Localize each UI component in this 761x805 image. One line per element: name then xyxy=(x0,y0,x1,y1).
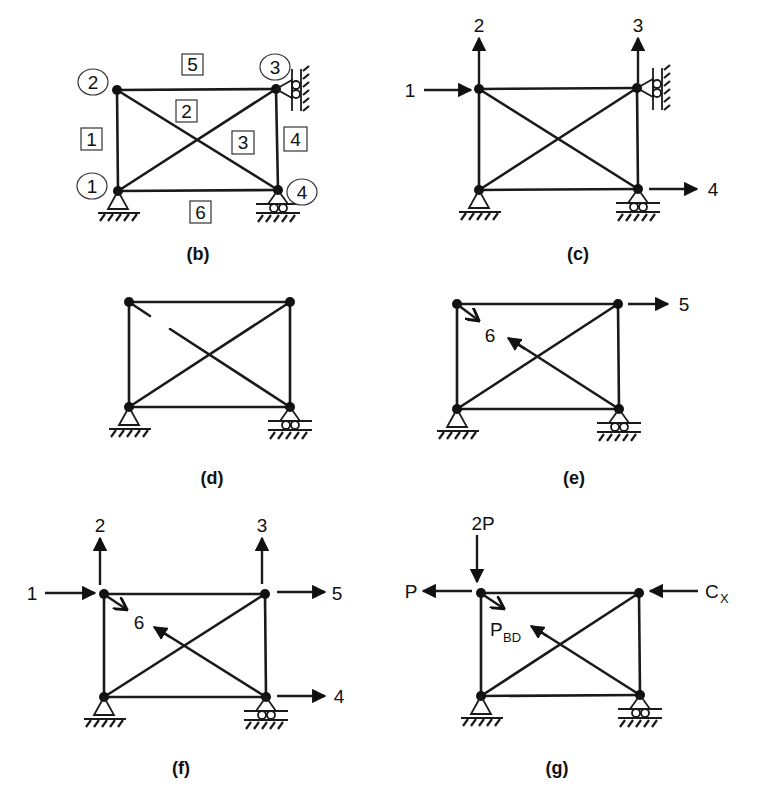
member-label-3: 3 xyxy=(232,131,254,154)
svg-text:3: 3 xyxy=(238,132,249,153)
dof-arrow-6a xyxy=(458,305,478,320)
dof-label-6: 6 xyxy=(485,325,496,346)
caption-g: (g) xyxy=(546,758,569,778)
member-label-5: 5 xyxy=(182,54,203,75)
member-label-2: 2 xyxy=(176,100,197,122)
truss-members xyxy=(479,88,638,190)
dof-label-4: 4 xyxy=(708,179,719,200)
panel-e: 6 5 (e) xyxy=(437,294,689,488)
panel-c: 1 2 3 4 (c) xyxy=(405,15,719,264)
truss-members xyxy=(457,304,619,409)
svg-text:X: X xyxy=(720,591,729,606)
member-label-4: 4 xyxy=(284,127,307,151)
dof-label-1: 1 xyxy=(27,583,38,604)
svg-text:2: 2 xyxy=(88,72,99,93)
dof-label-1: 1 xyxy=(405,80,416,101)
dof-label-3: 3 xyxy=(633,15,644,36)
truss-members xyxy=(129,302,290,407)
dof-label-2: 2 xyxy=(474,15,485,36)
svg-text:C: C xyxy=(705,581,719,602)
dof-label-4: 4 xyxy=(334,686,345,707)
node-label-1: 1 xyxy=(77,173,107,199)
svg-text:1: 1 xyxy=(87,176,98,197)
caption-c: (c) xyxy=(567,244,589,264)
dof-label-3: 3 xyxy=(257,515,268,536)
caption-f: (f) xyxy=(172,758,190,778)
node-2 xyxy=(112,85,122,95)
svg-text:5: 5 xyxy=(187,54,198,75)
svg-text:4: 4 xyxy=(290,129,301,150)
member-label-6: 6 xyxy=(190,201,211,223)
load-label-p: P xyxy=(405,581,418,602)
dof-arrow-6b xyxy=(154,627,170,637)
member-force-arrow-a xyxy=(482,594,503,608)
caption-b: (b) xyxy=(187,244,210,264)
svg-text:4: 4 xyxy=(297,182,308,203)
svg-text:1: 1 xyxy=(86,129,97,150)
node-label-4: 4 xyxy=(287,179,317,205)
truss-figure: 2 3 1 4 5 2 1 3 xyxy=(0,0,761,805)
panel-g: 2P P C X P BD (g) xyxy=(405,513,729,778)
load-label-2p: 2P xyxy=(471,513,494,534)
node-label-2: 2 xyxy=(78,69,108,95)
dof-label-2: 2 xyxy=(95,515,106,536)
dof-label-5: 5 xyxy=(679,294,690,315)
svg-text:P: P xyxy=(490,619,503,640)
dof-arrow-6a xyxy=(105,595,126,609)
dof-label-5: 5 xyxy=(332,583,343,604)
reaction-label-cx: C X xyxy=(705,581,729,606)
svg-text:6: 6 xyxy=(195,202,206,223)
panel-f: 1 2 3 4 5 6 (f) xyxy=(27,515,345,778)
truss-members xyxy=(104,594,266,697)
caption-d: (d) xyxy=(201,468,224,488)
svg-text:2: 2 xyxy=(181,101,192,122)
dof-label-6: 6 xyxy=(134,612,145,633)
member-force-arrow-b xyxy=(531,626,547,636)
dof-arrow-6b xyxy=(508,338,525,349)
member-label-1: 1 xyxy=(81,128,102,150)
node-label-3: 3 xyxy=(260,54,290,80)
svg-text:BD: BD xyxy=(503,630,521,645)
member-force-label-pbd: P BD xyxy=(490,619,521,645)
panel-d: (d) xyxy=(109,297,312,488)
svg-text:3: 3 xyxy=(270,57,281,78)
panel-b: 2 3 1 4 5 2 1 3 xyxy=(77,54,317,264)
caption-e: (e) xyxy=(563,468,585,488)
